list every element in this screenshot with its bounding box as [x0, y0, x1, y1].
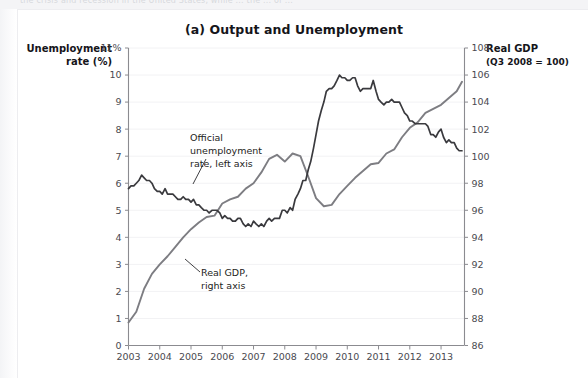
y-axis-left-tick-label: 10	[109, 69, 121, 80]
unemployment-annotation-line3: rate, left axis	[190, 158, 253, 169]
x-axis-tick-label: 2008	[273, 351, 297, 362]
y-axis-right-tick-label: 92	[472, 259, 484, 270]
y-axis-right-tick-label: 98	[472, 178, 484, 189]
unemployment-annotation-line2: unemployment	[190, 145, 262, 156]
x-axis-tick-label: 2006	[210, 351, 234, 362]
x-axis-tick-label: 2013	[429, 351, 453, 362]
y-axis-left-tick-label: 8	[115, 124, 121, 135]
y-axis-left-tick-label: 3	[115, 259, 121, 270]
gdp-annotation-line1: Real GDP,	[201, 267, 248, 278]
x-axis-tick-label: 2005	[179, 351, 203, 362]
y-axis-left-tick-label: 11%	[100, 42, 121, 53]
gdp-annotation-line2: right axis	[201, 280, 245, 291]
y-axis-right-tick-label: 100	[472, 151, 490, 162]
x-axis-tick-label: 2009	[304, 351, 328, 362]
y-axis-left-tick-label: 9	[115, 96, 121, 107]
y-axis-right-tick-label: 94	[472, 232, 484, 243]
y-axis-left-labels: 01234567891011%	[100, 42, 121, 351]
y-axis-left-tick-label: 2	[115, 286, 121, 297]
y-axis-right-tick-label: 108	[472, 42, 490, 53]
x-axis-tick-label: 2007	[241, 351, 265, 362]
x-axis-tick-label: 2004	[148, 351, 172, 362]
gridlines-group	[129, 48, 465, 318]
y-axis-right-tick-label: 86	[472, 340, 484, 351]
y-axis-left-tick-label: 7	[115, 151, 121, 162]
chart-plot: 01234567891011% 868890929496981001021041…	[0, 0, 588, 378]
y-axis-left-tick-label: 5	[115, 205, 121, 216]
y-axis-right-tick-label: 106	[472, 69, 490, 80]
y-axis-left-tick-label: 1	[115, 313, 121, 324]
y-axis-right-tick-label: 90	[472, 286, 484, 297]
x-axis-tick-label: 2011	[366, 351, 390, 362]
gdp-annotation: Real GDP, right axis	[185, 259, 248, 291]
y-axis-right-tick-label: 104	[472, 96, 490, 107]
y-axis-right-tick-label: 102	[472, 124, 490, 135]
x-axis-tick-label: 2010	[335, 351, 359, 362]
x-axis-labels: 2003200420052006200720082009201020112012…	[116, 351, 453, 362]
y-axis-left-tick-label: 0	[115, 340, 121, 351]
unemployment-annotation: Official unemployment rate, left axis	[190, 132, 262, 184]
series-line-unemployment	[129, 75, 463, 226]
y-axis-left-tick-label: 6	[115, 178, 121, 189]
gdp-annotation-leader	[185, 259, 200, 272]
y-axis-left-tick-label: 4	[115, 232, 121, 243]
figure-panel: the crisis and recession in the United S…	[0, 0, 588, 378]
x-axis-tick-label: 2012	[398, 351, 422, 362]
unemployment-annotation-line1: Official	[190, 132, 223, 143]
y-axis-right-tick-label: 96	[472, 205, 484, 216]
y-axis-right-labels: 86889092949698100102104106108	[472, 42, 490, 351]
x-axis-tick-label: 2003	[116, 351, 140, 362]
y-axis-right-tick-label: 88	[472, 313, 484, 324]
